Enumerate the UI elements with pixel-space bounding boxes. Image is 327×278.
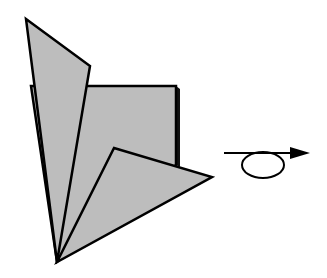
arrow-loop [242,152,284,178]
turn-over-arrow-icon [224,147,310,178]
origami-diagram [0,0,327,278]
arrowhead-icon [290,147,310,159]
